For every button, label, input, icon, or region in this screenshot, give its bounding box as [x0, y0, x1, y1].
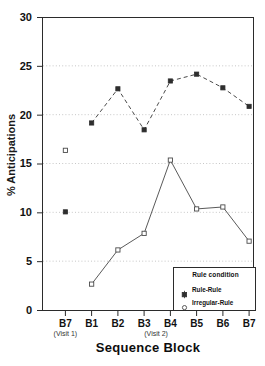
plot-area — [0, 0, 265, 366]
x-axis-title: Sequence Block — [42, 340, 254, 355]
legend-entry-rule-rule: Rule-Rule — [180, 285, 221, 294]
legend-entry-irregular-rule: Irregular-Rule — [180, 298, 233, 307]
legend-label-rule-rule: Rule-Rule — [192, 286, 221, 293]
y-axis-ticks — [37, 18, 43, 311]
open-circle-icon — [180, 298, 189, 307]
y-axis-title-wrap: % Anticipations — [0, 0, 23, 310]
filled-square-icon — [180, 285, 189, 294]
legend-label-irregular-rule: Irregular-Rule — [192, 299, 233, 306]
visit-1-annotation: (Visit 1) — [40, 330, 90, 337]
x-axis-ticks — [65, 311, 249, 317]
legend: Rule condition Rule-Rule Irregular-Rule — [173, 267, 256, 311]
x-tick-b7-visit2: B7 — [232, 318, 265, 329]
y-axis-title: % Anticipations — [5, 114, 17, 196]
visit-2-annotation: (Visit 2) — [131, 330, 181, 337]
legend-title: Rule condition — [174, 271, 257, 278]
chart-figure: 30 25 20 15 10 5 0 % Anticipations B7 B1… — [0, 0, 265, 366]
